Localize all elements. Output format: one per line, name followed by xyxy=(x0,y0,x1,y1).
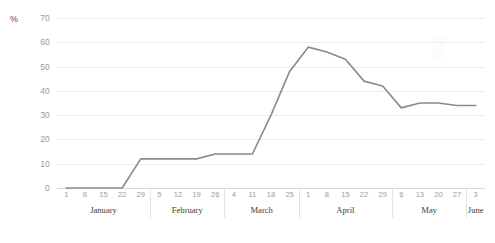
x-tick-label: 11 xyxy=(248,190,256,199)
x-tick-label: 12 xyxy=(174,190,182,199)
x-tick-label: 22 xyxy=(118,190,126,199)
y-tick-label-20: 20 xyxy=(40,134,50,144)
x-tick-label: 26 xyxy=(211,190,219,199)
y-tick-label-70: 70 xyxy=(40,13,50,23)
y-tick-label-30: 30 xyxy=(40,110,50,120)
x-tick-label: 4 xyxy=(232,190,236,199)
x-tick-label: 20 xyxy=(434,190,442,199)
x-tick-label: 25 xyxy=(285,190,293,199)
month-label-march: March xyxy=(250,205,272,215)
month-label-april: April xyxy=(336,205,354,215)
x-tick-label: 8 xyxy=(83,190,87,199)
y-tick-label-40: 40 xyxy=(40,86,50,96)
x-tick-label: 1 xyxy=(306,190,310,199)
plot-area: 010203040506070 xyxy=(57,18,485,188)
month-separator xyxy=(150,188,151,218)
x-tick-label: 22 xyxy=(360,190,368,199)
x-tick-label: 18 xyxy=(267,190,275,199)
y-tick-label-10: 10 xyxy=(40,159,50,169)
month-label-june: June xyxy=(468,205,484,215)
x-tick-label: 15 xyxy=(341,190,349,199)
x-tick-label: 13 xyxy=(416,190,424,199)
month-separator xyxy=(392,188,393,218)
x-tick-label: 19 xyxy=(192,190,200,199)
x-tick-label: 8 xyxy=(325,190,329,199)
x-tick-label: 3 xyxy=(474,190,478,199)
month-label-february: February xyxy=(172,205,203,215)
month-separator xyxy=(224,188,225,218)
month-label-january: January xyxy=(90,205,117,215)
x-tick-label: 29 xyxy=(137,190,145,199)
x-tick-label: 5 xyxy=(157,190,161,199)
line-chart: % 010203040506070 1815222951219264111825… xyxy=(0,0,495,243)
month-separator xyxy=(299,188,300,218)
series-line xyxy=(57,18,485,188)
y-tick-label-60: 60 xyxy=(40,37,50,47)
series-polyline xyxy=(66,47,475,188)
x-tick-label: 27 xyxy=(453,190,461,199)
x-axis: 18152229512192641118251815222961320273Ja… xyxy=(57,188,485,234)
x-tick-label: 15 xyxy=(99,190,107,199)
y-axis-unit-label: % xyxy=(10,14,18,24)
x-tick-label: 6 xyxy=(399,190,403,199)
y-tick-label-50: 50 xyxy=(40,62,50,72)
x-tick-label: 1 xyxy=(64,190,68,199)
month-label-may: May xyxy=(421,205,437,215)
x-tick-label: 29 xyxy=(378,190,386,199)
y-tick-label-0: 0 xyxy=(45,183,50,193)
